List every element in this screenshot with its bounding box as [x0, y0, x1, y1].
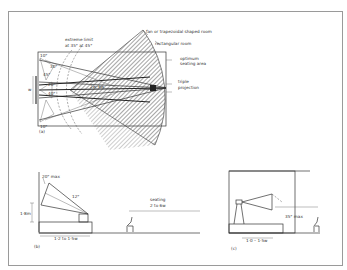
seated-viewer-c-icon	[314, 217, 319, 232]
stage-platform	[39, 222, 92, 233]
panel-b-section: 20° max 12° 1·8m seating 2 to 6w 1·2 to …	[20, 172, 200, 249]
projector-icon	[150, 85, 156, 91]
panel-c-tag: (c)	[231, 246, 237, 251]
label-base-b: 1·2 to 1·5w	[54, 236, 78, 241]
label-35-max: 35° max	[285, 214, 303, 219]
label-angle-40: 40°	[48, 91, 55, 96]
projection-cone-b	[41, 183, 88, 214]
label-angle-10-top: 10°	[40, 53, 47, 58]
label-20-max: 20° max	[42, 174, 60, 179]
label-angle-12: 12°	[72, 194, 79, 199]
label-angle-45: 45°	[43, 72, 50, 77]
label-extreme-1: extreme limit	[65, 37, 93, 42]
panel-a-tag: (a)	[39, 129, 45, 134]
label-triple-1: triple	[178, 79, 189, 84]
label-rect-room: rectangular room	[155, 41, 191, 46]
label-distance: 2w–6w	[90, 84, 105, 89]
projection-layout-diagram: fan or trapezoidal shaped room rectangul…	[0, 0, 347, 270]
seated-viewer-icon	[127, 217, 133, 232]
label-base-c: 1·0 – 1·5w	[246, 238, 268, 243]
panel-a-plan: fan or trapezoidal shaped room rectangul…	[28, 29, 212, 150]
label-seating-1: seating	[150, 197, 166, 202]
label-height-1-8m: 1·8m	[20, 211, 31, 216]
label-extreme-2: at 35° at 45°	[65, 43, 92, 48]
stage-platform-c	[229, 224, 283, 233]
label-angle-30: 30°	[50, 64, 57, 69]
label-triple-2: projection	[178, 85, 199, 90]
label-w: w	[28, 87, 32, 92]
panel-b-tag: (b)	[34, 244, 40, 249]
label-angle-20: 20°	[48, 82, 55, 87]
panel-c-section: 35° max 1·0 – 1·5w (c)	[229, 171, 320, 251]
label-optimum-2: seating area	[180, 61, 207, 66]
label-seating-2: 2 to 6w	[150, 203, 166, 208]
projection-cone-c	[242, 194, 272, 210]
projector-box	[79, 214, 88, 222]
label-fan-room: fan or trapezoidal shaped room	[146, 29, 212, 34]
